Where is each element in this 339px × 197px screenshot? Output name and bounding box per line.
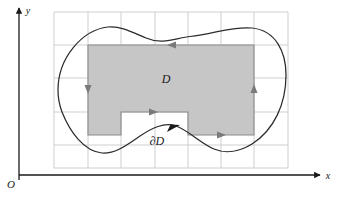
region-d-shape: [88, 45, 254, 135]
boundary-curve-arrow: [167, 125, 180, 133]
x-axis-label: x: [325, 170, 331, 181]
y-axis-label: y: [25, 5, 31, 16]
figure-region-d-boundary: x y O D ∂D: [0, 0, 339, 197]
figure-canvas: x y O D ∂D: [0, 0, 339, 197]
region-d-label: D: [161, 72, 171, 86]
boundary-d-label: ∂D: [150, 134, 165, 148]
origin-label: O: [7, 178, 15, 190]
